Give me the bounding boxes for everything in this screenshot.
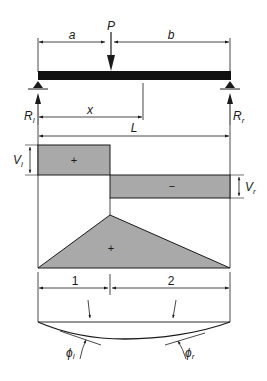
beam-diagram: a b P Rl Rr x L: [0, 0, 267, 381]
left-reaction-label: Rl: [24, 109, 35, 125]
dimension-L-label: L: [131, 121, 138, 135]
dimension-b-label: b: [168, 28, 175, 42]
dimension-x-label: x: [86, 103, 94, 117]
segment-2-label: 2: [168, 274, 175, 288]
shear-left-label: Vl: [13, 153, 23, 169]
shear-negative-sign: −: [169, 180, 175, 192]
load-label: P: [107, 19, 115, 33]
left-reaction-arrow-icon: [35, 93, 41, 125]
load-arrow-icon: [107, 32, 115, 71]
dimension-a-label: a: [69, 28, 76, 42]
segment-1-label: 1: [72, 274, 79, 288]
dimension-segments: [38, 272, 230, 322]
dimension-a-b: [38, 38, 230, 72]
left-support-icon: [28, 81, 48, 89]
right-reaction-label: Rr: [233, 109, 245, 125]
shear-positive-sign: +: [71, 154, 77, 166]
right-support-icon: [220, 81, 240, 89]
slope-right-label: ϕr: [185, 346, 195, 361]
shear-right-label: Vr: [245, 180, 256, 196]
moment-diagram: [38, 215, 230, 268]
slope-left-label: ϕl: [66, 346, 75, 361]
moment-positive-sign: +: [108, 242, 114, 254]
beam: [38, 71, 231, 80]
